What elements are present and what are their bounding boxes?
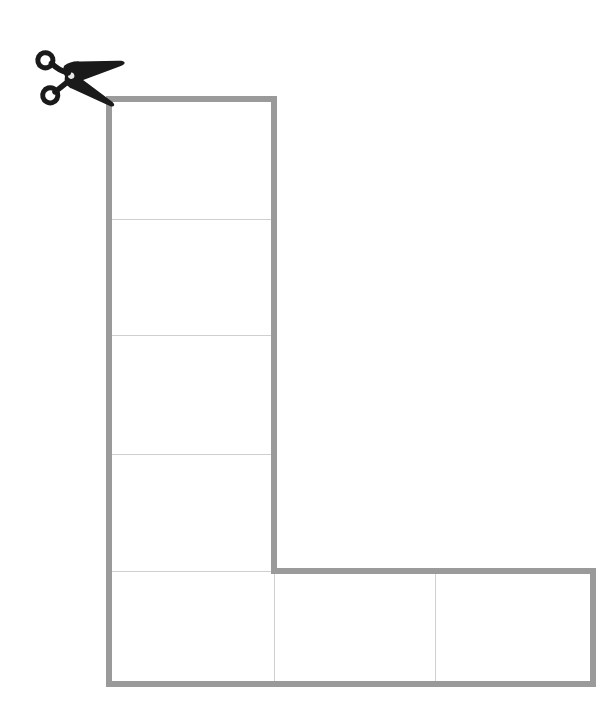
l-shape-figure [0, 0, 609, 724]
shape-fill [109, 99, 593, 684]
worksheet-canvas: Cut-out shape worksheet An L-shaped poly… [0, 0, 609, 724]
